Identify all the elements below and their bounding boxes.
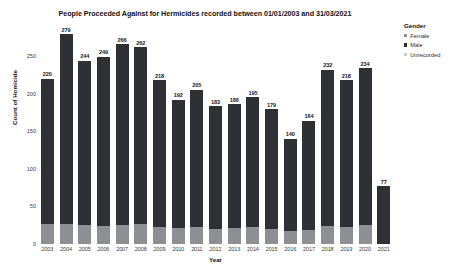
bar-group[interactable]: 186	[225, 26, 244, 244]
bar-segment-female[interactable]	[153, 227, 166, 244]
bar-segment-female[interactable]	[246, 227, 259, 244]
bar-group[interactable]: 164	[300, 26, 319, 244]
bar-group[interactable]: 183	[206, 26, 225, 244]
bar-group[interactable]: 234	[356, 26, 375, 244]
bar-segment-male[interactable]	[321, 70, 334, 226]
x-axis-tick: 2019	[337, 246, 356, 252]
bar-group[interactable]: 220	[38, 26, 57, 244]
bar-group[interactable]: 266	[113, 26, 132, 244]
bar-segment-female[interactable]	[284, 231, 297, 244]
bar-value-label: 244	[80, 53, 89, 59]
legend-item-male[interactable]: Male	[404, 42, 461, 48]
bar-group[interactable]: 218	[150, 26, 169, 244]
bar-group[interactable]: 218	[337, 26, 356, 244]
bar-segment-male[interactable]	[209, 106, 222, 229]
bar-segment-female[interactable]	[228, 228, 241, 244]
bar-segment-male[interactable]	[265, 109, 278, 229]
bar-segment-female[interactable]	[78, 225, 91, 244]
bar-value-label: 218	[155, 73, 164, 79]
bar-group[interactable]: 77	[374, 26, 393, 244]
bar-stack[interactable]: 140	[284, 139, 297, 244]
bar-segment-male[interactable]	[97, 57, 110, 226]
x-axis-title: Year	[38, 256, 393, 263]
bar-segment-female[interactable]	[302, 230, 315, 244]
bar-stack[interactable]: 186	[228, 104, 241, 244]
bar-segment-female[interactable]	[134, 224, 147, 244]
legend-item-female[interactable]: Female	[404, 33, 461, 39]
bar-stack[interactable]: 205	[190, 90, 203, 244]
x-axis-tick-labels: 2003200420052006200720082009201020112012…	[38, 246, 393, 252]
bar-stack[interactable]: 266	[116, 44, 129, 244]
bar-segment-male[interactable]	[302, 121, 315, 230]
bar-stack[interactable]: 183	[209, 106, 222, 244]
bar-segment-male[interactable]	[190, 90, 203, 228]
bar-segment-male[interactable]	[172, 100, 185, 229]
y-axis-tick: 250	[27, 53, 36, 59]
bar-stack[interactable]: 279	[60, 34, 73, 244]
bar-stack[interactable]: 218	[340, 80, 353, 244]
x-axis-tick: 2009	[150, 246, 169, 252]
bar-segment-female[interactable]	[190, 227, 203, 244]
bar-segment-male[interactable]	[340, 80, 353, 227]
bar-group[interactable]: 179	[262, 26, 281, 244]
bar-segment-male[interactable]	[377, 186, 390, 244]
bar-segment-male[interactable]	[60, 34, 73, 224]
bar-stack[interactable]: 244	[78, 61, 91, 244]
bar-group[interactable]: 279	[57, 26, 76, 244]
bar-group[interactable]: 244	[75, 26, 94, 244]
bar-stack[interactable]: 232	[321, 70, 334, 244]
bar-segment-female[interactable]	[172, 228, 185, 244]
bar-stack[interactable]: 262	[134, 47, 147, 244]
bar-stack[interactable]: 220	[41, 79, 54, 244]
bar-segment-female[interactable]	[340, 227, 353, 244]
bar-value-label: 179	[267, 102, 276, 108]
bar-stack[interactable]: 195	[246, 97, 259, 244]
x-axis-tick: 2018	[318, 246, 337, 252]
bar-segment-female[interactable]	[359, 225, 372, 244]
bar-segment-female[interactable]	[116, 225, 129, 244]
bar-stack[interactable]: 218	[153, 80, 166, 244]
bar-group[interactable]: 192	[169, 26, 188, 244]
bar-group[interactable]: 195	[244, 26, 263, 244]
bars-layer: 2202792442492662622181922051831861951791…	[38, 26, 393, 244]
bar-segment-female[interactable]	[209, 229, 222, 244]
bar-segment-female[interactable]	[97, 226, 110, 244]
bar-chart: People Proceeded Against for Hermicides …	[0, 0, 461, 278]
bar-segment-male[interactable]	[134, 47, 147, 224]
bar-stack[interactable]: 234	[359, 68, 372, 244]
bar-segment-male[interactable]	[41, 79, 54, 224]
bar-segment-male[interactable]	[359, 68, 372, 225]
bar-segment-female[interactable]	[60, 224, 73, 244]
bar-group[interactable]: 262	[131, 26, 150, 244]
bar-group[interactable]: 232	[318, 26, 337, 244]
x-axis-tick: 2010	[169, 246, 188, 252]
bar-stack[interactable]: 77	[377, 186, 390, 244]
bar-group[interactable]: 205	[188, 26, 207, 244]
legend-title: Gender	[404, 22, 461, 29]
bar-segment-male[interactable]	[116, 44, 129, 225]
bar-segment-male[interactable]	[246, 97, 259, 226]
bar-group[interactable]: 140	[281, 26, 300, 244]
bar-value-label: 164	[304, 113, 313, 119]
bar-value-label: 140	[286, 131, 295, 137]
bar-value-label: 249	[99, 49, 108, 55]
x-axis-tick: 2013	[225, 246, 244, 252]
x-axis-tick: 2012	[206, 246, 225, 252]
bar-segment-male[interactable]	[284, 139, 297, 231]
bar-stack[interactable]: 164	[302, 121, 315, 244]
y-axis-tick: 0	[33, 241, 36, 247]
bar-segment-male[interactable]	[228, 104, 241, 228]
x-axis-tick: 2015	[262, 246, 281, 252]
bar-segment-female[interactable]	[321, 226, 334, 244]
legend-item-unrecorded[interactable]: Unrecorded	[404, 52, 461, 58]
legend-swatch-icon	[404, 43, 407, 46]
bar-segment-male[interactable]	[78, 61, 91, 226]
bar-group[interactable]: 249	[94, 26, 113, 244]
bar-segment-female[interactable]	[265, 229, 278, 244]
bar-segment-female[interactable]	[41, 224, 54, 244]
bar-stack[interactable]: 249	[97, 57, 110, 244]
bar-segment-male[interactable]	[153, 80, 166, 227]
bar-stack[interactable]: 179	[265, 109, 278, 244]
bar-stack[interactable]: 192	[172, 100, 185, 244]
x-axis-tick: 2014	[244, 246, 263, 252]
